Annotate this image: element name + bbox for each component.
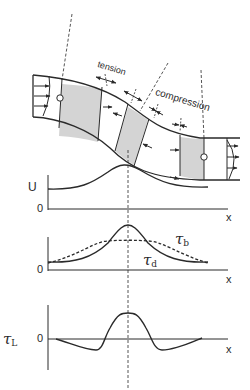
channel	[33, 74, 240, 180]
hinge-right	[201, 154, 207, 160]
shear-x-label: x	[226, 274, 232, 285]
hinge-left	[57, 95, 63, 101]
block-3	[180, 137, 204, 180]
figure: tension compression U 0 x 0 x τb τd τL 0…	[0, 0, 250, 390]
lateral-panel	[48, 305, 228, 370]
block-1	[59, 84, 102, 142]
tau-d-label: τd	[143, 253, 157, 269]
shear-panel	[48, 225, 228, 271]
tau-b-label: τb	[175, 232, 189, 248]
tau-l-curve	[56, 313, 202, 350]
shear-zero-label: 0	[37, 264, 43, 275]
lateral-zero-label: 0	[37, 333, 43, 344]
velocity-zero-label: 0	[37, 203, 43, 214]
lateral-x-label: x	[226, 344, 232, 355]
tau-l-label: τL	[3, 332, 17, 348]
velocity-y-label: U	[28, 181, 37, 193]
guide-lines	[62, 14, 204, 390]
velocity-x-label: x	[226, 212, 232, 223]
